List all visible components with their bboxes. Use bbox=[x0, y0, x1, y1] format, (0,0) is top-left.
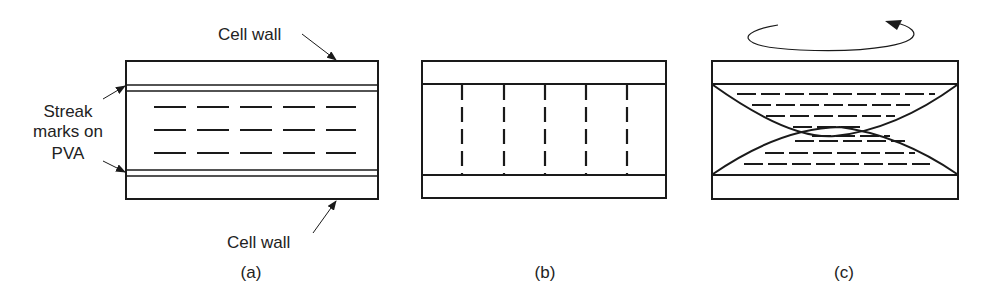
arrow-streak-bottom bbox=[103, 161, 125, 172]
diagram-canvas: Cell wall Cell wall Streak marks on PVA … bbox=[0, 0, 982, 302]
caption-a: (a) bbox=[241, 263, 262, 282]
arrow-streak-top bbox=[103, 86, 125, 99]
twisted-dash-alignment bbox=[737, 94, 935, 164]
cell-outline bbox=[712, 61, 958, 199]
panel-b bbox=[422, 61, 666, 198]
panel-a bbox=[103, 34, 378, 233]
caption-c: (c) bbox=[834, 263, 854, 282]
arrow-top-cell-wall bbox=[302, 34, 336, 60]
label-streak-line3: PVA bbox=[52, 144, 85, 163]
label-streak-line2: marks on bbox=[33, 122, 103, 141]
rotation-arrowhead-icon bbox=[885, 20, 902, 30]
upper-twist-boundary bbox=[713, 85, 957, 136]
horizontal-dash-alignment bbox=[154, 107, 356, 153]
label-cell-wall-top: Cell wall bbox=[218, 25, 281, 44]
vertical-dash-alignment bbox=[462, 85, 627, 174]
label-streak-line1: Streak bbox=[43, 102, 93, 121]
label-cell-wall-bottom: Cell wall bbox=[227, 233, 290, 252]
rotation-arrow-icon bbox=[748, 23, 914, 51]
lower-twist-boundary bbox=[713, 127, 957, 174]
caption-b: (b) bbox=[535, 263, 556, 282]
arrow-bottom-cell-wall bbox=[313, 201, 336, 233]
panel-c bbox=[712, 20, 958, 199]
